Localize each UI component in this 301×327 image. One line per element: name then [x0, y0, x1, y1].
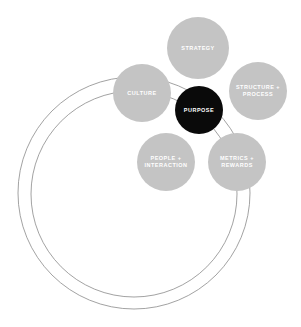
node-label-line2: PROCESS — [236, 91, 280, 98]
node-label-line1: METRICS + — [220, 155, 254, 162]
node-label: STRATEGY — [181, 45, 215, 52]
node-label-line1: PEOPLE + — [144, 155, 187, 162]
node-label-line2: INTERACTION — [144, 162, 187, 169]
node-label-line1: STRUCTURE + — [236, 84, 280, 91]
node-metrics-rewards: METRICS + REWARDS — [208, 133, 266, 191]
node-culture: CULTURE — [113, 64, 171, 122]
node-people-interaction: PEOPLE + INTERACTION — [137, 133, 195, 191]
node-label-line2: REWARDS — [220, 162, 254, 169]
node-strategy: STRATEGY — [167, 17, 229, 79]
center-label: PURPOSE — [184, 107, 214, 114]
node-structure-process: STRUCTURE + PROCESS — [229, 62, 287, 120]
node-purpose-center: PURPOSE — [175, 86, 223, 134]
node-label: CULTURE — [127, 90, 156, 97]
